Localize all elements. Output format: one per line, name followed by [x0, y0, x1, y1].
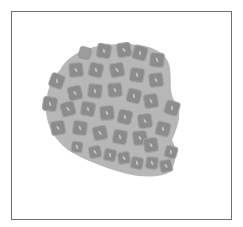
cell: [96, 43, 112, 59]
cell: [117, 151, 130, 164]
cell: [80, 101, 96, 117]
cell: [67, 85, 84, 102]
cell: [116, 42, 132, 58]
cell: [149, 52, 164, 67]
cell: [68, 62, 83, 77]
cell: [112, 129, 128, 145]
cell: [148, 72, 163, 87]
cell: [42, 96, 58, 112]
cell: [92, 125, 109, 142]
cell: [131, 44, 148, 61]
cell: [88, 145, 102, 159]
cell: [50, 120, 66, 136]
cell: [117, 109, 134, 126]
cell: [99, 105, 114, 120]
cell: [71, 141, 83, 153]
cell: [129, 67, 145, 83]
cell: [159, 159, 173, 173]
cell: [59, 100, 76, 117]
cell: [143, 93, 159, 109]
cell: [155, 121, 172, 138]
cell: [109, 62, 125, 78]
cell: [137, 113, 153, 129]
cell: [87, 83, 102, 98]
cell: [145, 156, 158, 169]
cell: [88, 62, 105, 79]
cell: [103, 148, 117, 162]
cell-tissue-illustration: [0, 0, 243, 227]
cell: [108, 83, 123, 98]
cell: [126, 88, 143, 105]
cell: [143, 137, 159, 153]
cell: [72, 120, 87, 135]
cell: [164, 145, 179, 160]
cell: [130, 156, 144, 170]
